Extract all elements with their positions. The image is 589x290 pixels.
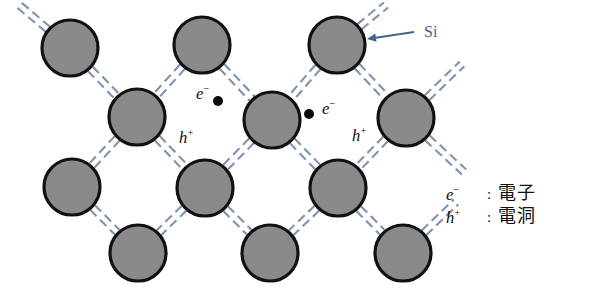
edge-bond-3 xyxy=(425,135,466,174)
bond-line xyxy=(95,205,120,230)
bond-line xyxy=(154,64,180,93)
covalent-bond-b1-c1 xyxy=(89,136,119,168)
silicon-atom xyxy=(177,160,233,216)
legend-colon-2: : xyxy=(480,209,498,226)
covalent-bond-a2-b1 xyxy=(154,64,185,97)
bond-line xyxy=(289,206,315,231)
bond-line xyxy=(94,141,120,168)
bond-line xyxy=(20,1,50,26)
silicon-atom xyxy=(242,225,298,281)
figure-canvas: e−e−h+h+ Si e−:電子h+:電洞 xyxy=(0,0,589,290)
covalent-bond-b2-c2 xyxy=(223,138,254,169)
electron-right-symbol: e xyxy=(322,99,330,118)
bond-line xyxy=(295,139,321,165)
silicon-atom xyxy=(174,17,230,73)
legend: e−:電子h+:電洞 xyxy=(446,178,576,224)
edge-bond-2 xyxy=(425,62,465,101)
covalent-bond-c1-d1 xyxy=(90,205,120,235)
bond-line xyxy=(293,69,320,100)
covalent-bond-c3-d2 xyxy=(289,206,320,236)
covalent-bond-a3-b3 xyxy=(355,64,389,99)
legend-symbol-charge-2: + xyxy=(454,207,460,218)
legend-symbol-2: h+ xyxy=(446,207,480,228)
bond-line xyxy=(293,210,319,235)
legend-text-2: 電洞 xyxy=(498,201,535,227)
covalent-bond-a3-b2 xyxy=(289,65,321,101)
covalent-bond-c3-d3 xyxy=(356,206,385,235)
bond-line xyxy=(425,62,460,96)
bond-line xyxy=(224,64,254,97)
electron-left-label: e− xyxy=(196,84,209,102)
edge-bond-1 xyxy=(357,2,388,29)
electron-left-dot xyxy=(213,96,223,106)
bond-line xyxy=(429,135,466,169)
si-arrow-shaft xyxy=(374,32,414,38)
hole-right-label: h+ xyxy=(352,126,366,144)
electron-right-label: e− xyxy=(322,99,335,117)
bond-line xyxy=(157,206,182,231)
bond-line xyxy=(223,138,249,165)
electron-left-symbol: e xyxy=(196,84,204,103)
silicon-atom xyxy=(109,89,165,145)
silicon-atom xyxy=(310,160,366,216)
si-arrow xyxy=(367,32,414,42)
hole-right-charge: + xyxy=(360,125,366,136)
legend-symbol-charge-1: − xyxy=(453,184,459,195)
silicon-atom xyxy=(378,90,434,146)
electron-right-charge: − xyxy=(330,98,336,109)
hole-left-label: h+ xyxy=(179,128,193,146)
covalent-bond-c2-d2 xyxy=(223,206,252,235)
silicon-atom xyxy=(375,225,431,281)
silicon-atom xyxy=(44,159,100,215)
bond-line xyxy=(361,141,389,169)
electron-left-charge: − xyxy=(204,83,210,94)
covalent-bond-c2-d1 xyxy=(157,206,187,235)
bond-line xyxy=(89,136,115,163)
silicon-atom xyxy=(244,92,300,148)
si-arrow-head xyxy=(367,34,377,42)
silicon-atom xyxy=(110,225,166,281)
bond-line xyxy=(93,67,120,94)
bond-line xyxy=(16,7,46,32)
edge-bond-0 xyxy=(16,1,50,31)
covalent-bond-b2-c3 xyxy=(290,139,320,170)
bond-line xyxy=(429,66,464,100)
bond-line xyxy=(161,211,186,236)
covalent-bond-a2-b2 xyxy=(219,64,254,101)
hole-left-charge: + xyxy=(187,127,193,138)
legend-symbol-1: e− xyxy=(446,184,480,205)
legend-symbol-base-2: h xyxy=(446,207,454,226)
bond-line xyxy=(219,68,249,101)
legend-row-1: e−:電子 xyxy=(446,178,576,201)
bond-line xyxy=(88,71,115,98)
bond-line xyxy=(357,2,384,24)
si-label: Si xyxy=(424,24,437,40)
legend-row-2: h+:電洞 xyxy=(446,201,576,224)
covalent-bond-a1-b1 xyxy=(88,67,119,99)
electron-right-dot xyxy=(304,109,314,119)
silicon-atom xyxy=(309,17,365,73)
bond-line xyxy=(90,210,115,235)
silicon-atom xyxy=(42,20,98,76)
legend-colon-1: : xyxy=(480,186,498,203)
bond-line xyxy=(159,69,185,98)
bond-line xyxy=(290,143,316,169)
bond-line xyxy=(228,143,254,170)
lattice-diagram xyxy=(0,0,589,290)
bond-line xyxy=(425,140,462,174)
